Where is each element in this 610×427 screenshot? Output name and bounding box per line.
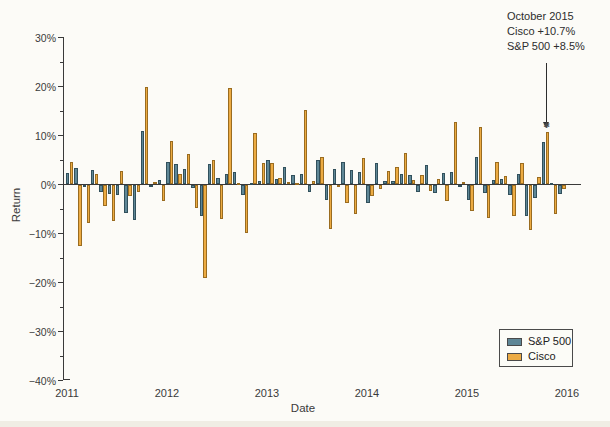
y-minor-tick: [60, 356, 63, 357]
bar-cisco-2013-12: [362, 158, 365, 184]
bar-cisco-2012-11: [253, 133, 256, 184]
y-major-tick: [58, 331, 63, 332]
returns-bar-chart: 30%20%10%0%−10%−20%−30%−40% 201120122013…: [0, 0, 610, 427]
bar-cisco-2011-07: [120, 171, 123, 184]
bar-cisco-2012-10: [245, 185, 248, 233]
bar-cisco-2014-05: [404, 153, 407, 184]
y-major-tick: [58, 184, 63, 185]
bar-cisco-2013-06: [312, 181, 315, 184]
y-major-tick: [58, 86, 63, 87]
bar-sp500-2014-07: [416, 185, 419, 192]
y-tick-label: −10%: [0, 229, 56, 239]
bar-sp500-2014-10: [442, 173, 445, 184]
y-tick-label: 20%: [0, 82, 56, 92]
bar-cisco-2012-06: [212, 160, 215, 185]
bar-cisco-2014-09: [437, 179, 440, 184]
legend-label-sp500: S&P 500: [528, 336, 571, 347]
bar-cisco-2015-09: [537, 177, 540, 184]
bar-cisco-2013-09: [337, 185, 340, 187]
bar-cisco-2011-04: [95, 174, 98, 184]
bar-cisco-2015-03: [487, 185, 490, 218]
bar-cisco-2012-08: [228, 88, 231, 184]
bar-cisco-2015-04: [495, 162, 498, 184]
y-minor-tick: [60, 62, 63, 63]
bar-cisco-2011-02: [78, 185, 81, 246]
bar-cisco-2015-02: [479, 127, 482, 184]
bar-cisco-2015-08: [529, 185, 532, 230]
y-major-tick: [58, 380, 63, 381]
bar-cisco-2013-02: [278, 178, 281, 184]
bar-cisco-2013-01: [270, 163, 273, 184]
y-minor-tick: [60, 160, 63, 161]
bar-cisco-2015-06: [512, 185, 515, 216]
bar-cisco-2012-03: [187, 154, 190, 184]
legend-item-sp500: S&P 500: [507, 334, 572, 349]
y-tick-label: 30%: [0, 33, 56, 43]
bar-cisco-2014-11: [454, 122, 457, 184]
bar-cisco-2012-12: [262, 163, 265, 184]
y-major-tick: [58, 135, 63, 136]
bar-cisco-2015-07: [520, 163, 523, 184]
y-minor-tick: [60, 307, 63, 308]
bar-sp500-2013-11: [350, 170, 353, 184]
bar-cisco-2011-05: [103, 185, 106, 206]
annotation-line-1: October 2015: [507, 9, 607, 24]
annotation-star-marker-icon: ✱: [541, 121, 552, 130]
bar-cisco-2014-08: [429, 185, 432, 191]
bar-cisco-2011-06: [112, 185, 115, 221]
bar-cisco-2013-08: [329, 185, 332, 229]
y-axis-spine-foot: [63, 379, 70, 380]
bar-cisco-2012-09: [237, 183, 240, 185]
bar-cisco-2013-03: [287, 182, 290, 184]
y-tick-label: 10%: [0, 131, 56, 141]
bar-sp500-2014-12: [458, 185, 461, 187]
annotation-october-2015: October 2015 Cisco +10.7% S&P 500 +8.5%: [507, 9, 607, 54]
bar-cisco-2015-12: [562, 185, 565, 189]
bar-cisco-2013-10: [345, 185, 348, 203]
bar-cisco-2012-02: [178, 174, 181, 184]
bar-cisco-2012-04: [195, 185, 198, 208]
sp500-swatch-icon: [507, 338, 522, 346]
annotation-arrow-line: [546, 63, 547, 122]
bar-cisco-2011-03: [87, 185, 90, 223]
bar-sp500-2013-10: [341, 162, 344, 184]
bar-cisco-2013-05: [304, 110, 307, 184]
x-tick-label-2013: 2013: [237, 387, 297, 399]
bar-cisco-2015-01: [470, 185, 473, 211]
y-minor-tick: [60, 258, 63, 259]
bar-cisco-2014-03: [387, 171, 390, 184]
bar-cisco-2014-12: [462, 182, 465, 184]
x-tick-label-2015: 2015: [437, 387, 497, 399]
bar-sp500-2013-09: [333, 169, 336, 184]
y-tick-label: −40%: [0, 376, 56, 386]
bar-cisco-2015-11: [554, 185, 557, 214]
y-axis-title: Return: [10, 175, 22, 235]
legend-label-cisco: Cisco: [528, 351, 556, 362]
bar-cisco-2011-12: [162, 185, 165, 201]
bar-sp500-2011-11: [149, 185, 152, 187]
y-tick-label: −30%: [0, 327, 56, 337]
x-tick-label-2014: 2014: [337, 387, 397, 399]
bar-cisco-2011-09: [137, 185, 140, 192]
annotation-line-2: Cisco +10.7%: [507, 24, 607, 39]
bar-cisco-2014-02: [379, 185, 382, 189]
annotation-line-3: S&P 500 +8.5%: [507, 39, 607, 54]
bar-sp500-2014-02: [375, 163, 378, 184]
x-axis-title: Date: [273, 402, 333, 414]
bar-cisco-2012-07: [220, 185, 223, 219]
legend-item-cisco: Cisco: [507, 349, 572, 364]
zero-baseline: [64, 184, 581, 185]
bar-cisco-2015-10: [546, 132, 549, 184]
x-tick-label-2016: 2016: [537, 387, 597, 399]
legend: S&P 500 Cisco: [499, 329, 573, 367]
bar-cisco-2011-11: [153, 182, 156, 184]
page-scan-edge: [0, 421, 610, 427]
bar-cisco-2013-07: [320, 157, 323, 184]
bar-cisco-2014-04: [395, 167, 398, 184]
bar-sp500-2011-12: [158, 180, 161, 184]
y-minor-tick: [60, 111, 63, 112]
bar-sp500-2013-06: [308, 185, 311, 192]
bar-cisco-2014-06: [412, 180, 415, 184]
bar-cisco-2013-04: [295, 183, 298, 185]
x-tick-label-2012: 2012: [137, 387, 197, 399]
